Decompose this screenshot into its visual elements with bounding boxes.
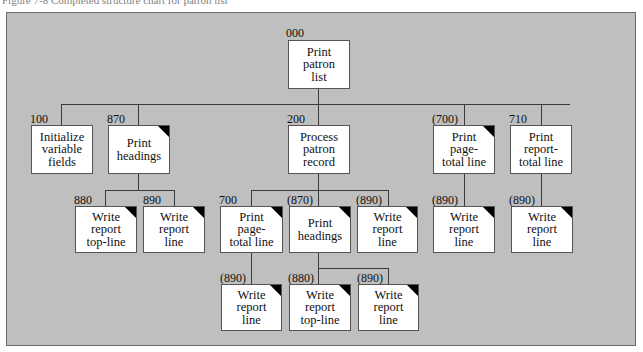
module-print-report-total-line[interactable]: Printreport-total line (510, 125, 572, 174)
connector (318, 173, 319, 190)
module-write-report-line-ref[interactable]: Writereportline (357, 206, 418, 253)
module-write-report-top-line-ref[interactable]: Writereporttop-line (289, 284, 351, 331)
module-write-report-top-line[interactable]: Writereporttop-line (75, 206, 137, 253)
repeated-module-corner-icon (270, 285, 281, 296)
module-initialize-variable-fields[interactable]: Initializevariablefields (31, 125, 93, 174)
module-number: 100 (30, 113, 48, 125)
module-number: 200 (287, 113, 305, 125)
connector (464, 173, 465, 206)
connector (138, 104, 139, 125)
connector (251, 252, 252, 284)
module-number: (880) (288, 272, 314, 284)
module-number: (700) (432, 113, 458, 125)
module-write-report-line-ref[interactable]: Writereportline (358, 284, 419, 331)
module-print-page-total-line-ref[interactable]: Printpage-total line (433, 125, 495, 174)
module-number: (890) (509, 194, 535, 206)
module-write-report-line-ref[interactable]: Writereportline (221, 284, 282, 331)
repeated-module-corner-icon (339, 285, 350, 296)
repeated-module-corner-icon (407, 285, 418, 296)
connector (388, 190, 389, 206)
repeated-module-corner-icon (158, 126, 169, 137)
connector (251, 190, 252, 206)
module-write-report-line-ref[interactable]: Writereportline (433, 206, 495, 253)
connector (388, 268, 389, 284)
connector (61, 104, 62, 125)
module-number: (890) (432, 194, 458, 206)
module-number: 890 (143, 194, 161, 206)
connector (318, 268, 388, 269)
repeated-module-corner-icon (483, 126, 494, 137)
module-number: 870 (107, 113, 125, 125)
module-number: (890) (220, 272, 246, 284)
module-number: 000 (286, 27, 304, 39)
module-number: (890) (356, 194, 382, 206)
repeated-module-corner-icon (561, 207, 572, 218)
module-number: (870) (287, 194, 313, 206)
connector (318, 89, 319, 104)
connector (251, 190, 388, 191)
connector (541, 173, 542, 206)
module-process-patron-record[interactable]: Processpatronrecord (288, 125, 350, 174)
module-number: (890) (357, 272, 383, 284)
repeated-module-corner-icon (271, 207, 282, 218)
module-number: 880 (74, 194, 92, 206)
connector (105, 190, 174, 191)
connector (138, 173, 139, 190)
module-write-report-line-ref[interactable]: Writereportline (511, 206, 573, 253)
repeated-module-corner-icon (483, 207, 494, 218)
module-print-page-total-line[interactable]: Printpage-total line (220, 206, 283, 253)
module-print-headings[interactable]: Printheadings (108, 125, 170, 174)
connector (318, 104, 319, 125)
connector (541, 104, 542, 125)
module-print-patron-list[interactable]: Printpatronlist (288, 40, 350, 89)
repeated-module-corner-icon (125, 207, 136, 218)
figure-caption: Figure 7-8 Completed structure chart for… (2, 0, 228, 6)
module-write-report-line[interactable]: Writereportline (143, 206, 205, 253)
module-number: 710 (509, 113, 527, 125)
module-print-headings-ref[interactable]: Printheadings (289, 206, 351, 253)
connector (464, 104, 465, 125)
connector (105, 190, 106, 206)
module-number: 700 (219, 194, 237, 206)
repeated-module-corner-icon (406, 207, 417, 218)
connector (174, 190, 175, 206)
repeated-module-corner-icon (339, 207, 350, 218)
repeated-module-corner-icon (193, 207, 204, 218)
connector (318, 190, 319, 206)
